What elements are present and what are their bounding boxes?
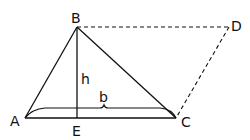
parallelogram-diagram: B D A C E h b (0, 0, 250, 140)
label-base: b (99, 89, 108, 105)
side-bc (77, 27, 176, 118)
label-b-vertex: B (71, 10, 81, 26)
side-ab (25, 27, 77, 118)
dashed-side-dc (176, 27, 229, 118)
base-brace (25, 105, 176, 118)
label-d-vertex: D (231, 18, 242, 34)
label-c-vertex: C (181, 114, 191, 130)
label-e-point: E (72, 123, 81, 139)
label-a-vertex: A (10, 113, 20, 129)
label-height: h (81, 71, 90, 87)
